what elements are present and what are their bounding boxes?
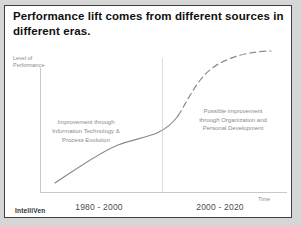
x-axis-era-label-1980-2000: 1980 - 2000 (59, 202, 139, 212)
y-axis-label-line-2: Performance (13, 62, 45, 69)
left-annotation-line-1: Improvement through (40, 118, 132, 127)
y-axis-label-line-1: Level of (13, 55, 45, 62)
right-annotation-line-1: Possible improvement (186, 107, 280, 116)
annotation-org-personal-development: Possible improvement through Organizatio… (186, 107, 280, 133)
screenshot-stage: Performance lift comes from different so… (0, 0, 302, 226)
left-annotation-line-3: Process Evolution (40, 136, 132, 145)
left-annotation-line-2: Information Technology & (40, 127, 132, 136)
y-axis-label: Level of Performance (13, 55, 45, 69)
slide-title: Performance lift comes from different so… (13, 9, 289, 38)
right-annotation-line-2: through Organization and (186, 116, 280, 125)
intelliven-logo: IntelliVen (15, 207, 46, 214)
x-axis-era-label-2000-2020: 2000 - 2020 (180, 202, 260, 212)
right-annotation-line-3: Personal Development (186, 124, 280, 133)
x-axis-label-time: Time (258, 196, 270, 202)
annotation-it-process-evolution: Improvement through Information Technolo… (40, 118, 132, 145)
slide-title-line-1: Performance lift comes from different so… (13, 9, 289, 24)
slide-title-line-2: different eras. (13, 24, 289, 39)
